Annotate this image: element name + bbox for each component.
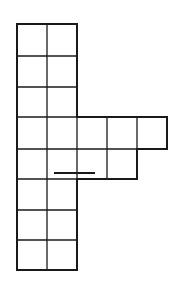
grid-net-diagram: [0, 0, 181, 285]
grid-figure: [0, 0, 181, 285]
figure-outline: [17, 24, 167, 270]
